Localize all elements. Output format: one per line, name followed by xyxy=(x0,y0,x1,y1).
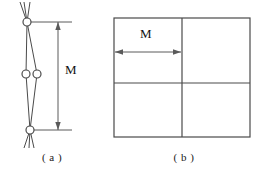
dimension-arrowhead-up xyxy=(55,22,60,30)
lens-edge-top-right xyxy=(27,22,37,74)
figure-panel-b: M ( b ) xyxy=(104,0,264,183)
panel-a-drawing xyxy=(0,0,104,150)
lens-edge-top-left xyxy=(26,22,27,74)
lens-edge-bottom-right xyxy=(30,74,37,130)
figure-root: M ( a ) M ( b ) xyxy=(0,0,264,183)
middle-left-node xyxy=(22,70,30,78)
dimension-arrowhead-down xyxy=(55,122,60,130)
figure-panel-a: M ( a ) xyxy=(0,0,104,183)
dimension-label-m-a: M xyxy=(65,62,77,78)
bottom-node xyxy=(26,126,34,134)
dimension-arrowhead-left xyxy=(115,49,123,54)
dimension-label-m-b: M xyxy=(140,26,152,42)
top-node xyxy=(23,18,31,26)
caption-b: ( b ) xyxy=(104,151,264,163)
middle-right-node xyxy=(33,70,41,78)
caption-a: ( a ) xyxy=(0,151,104,163)
lens-edge-bottom-left xyxy=(26,74,30,130)
dimension-arrowhead-right xyxy=(173,49,181,54)
panel-b-drawing xyxy=(104,0,264,150)
